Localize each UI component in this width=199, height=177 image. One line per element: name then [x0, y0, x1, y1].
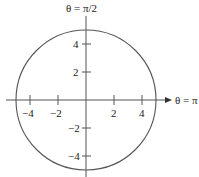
axis-label-top: θ = π/2 [66, 3, 97, 14]
x-tick-label: 4 [139, 108, 145, 119]
y-tick-label: 2 [73, 67, 79, 78]
y-tick-label: −2 [68, 123, 80, 134]
y-tick-label: −4 [68, 151, 80, 162]
x-tick-label: −2 [50, 108, 62, 119]
arrow-head-icon [165, 97, 172, 103]
y-tick-label: 4 [73, 39, 79, 50]
x-tick-label: 2 [111, 108, 117, 119]
axis-label-right: θ = π [175, 95, 198, 106]
x-tick-label: −4 [22, 108, 34, 119]
polar-plot [0, 0, 199, 177]
